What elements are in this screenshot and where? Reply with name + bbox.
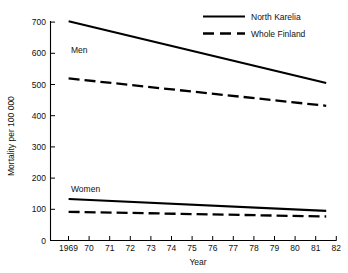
- x-tick-label-77: 77: [229, 243, 239, 253]
- legend-label-north-karelia: North Karelia: [251, 12, 301, 22]
- y-axis-ticks: [51, 22, 56, 240]
- x-tick-label-72: 72: [126, 243, 136, 253]
- legend-label-whole-finland: Whole Finland: [251, 29, 306, 39]
- chart-canvas: 0 100 200 300 400 500 600 700 Mortality …: [0, 0, 348, 273]
- y-tick-label-400: 400: [32, 111, 46, 121]
- x-tick-label-79: 79: [270, 243, 280, 253]
- y-tick-label-200: 200: [32, 173, 46, 183]
- x-tick-label-1969: 1969: [59, 243, 78, 253]
- y-axis-title: Mortality per 100 000: [6, 96, 16, 176]
- x-tick-label-78: 78: [249, 243, 259, 253]
- series-line-men-whole-finland: [69, 78, 327, 105]
- x-tick-label-82: 82: [332, 243, 342, 253]
- x-tick-label-70: 70: [84, 243, 94, 253]
- x-tick-label-81: 81: [311, 243, 321, 253]
- x-axis-ticks: [69, 236, 337, 241]
- x-tick-label-74: 74: [167, 243, 177, 253]
- chart-legend: North Karelia Whole Finland: [203, 12, 306, 39]
- annotation-men: Men: [71, 45, 88, 55]
- x-axis-title: Year: [189, 257, 206, 267]
- x-tick-label-73: 73: [146, 243, 156, 253]
- y-tick-label-0: 0: [41, 236, 46, 246]
- series-line-women-north-karelia: [69, 199, 327, 211]
- mortality-trend-chart: 0 100 200 300 400 500 600 700 Mortality …: [0, 0, 348, 273]
- y-tick-label-600: 600: [32, 48, 46, 58]
- y-tick-label-300: 300: [32, 142, 46, 152]
- y-tick-label-700: 700: [32, 17, 46, 27]
- series-line-women-whole-finland: [69, 212, 327, 217]
- x-tick-label-71: 71: [105, 243, 115, 253]
- x-tick-label-75: 75: [187, 243, 197, 253]
- x-tick-label-80: 80: [290, 243, 300, 253]
- annotation-women: Women: [71, 184, 100, 194]
- y-tick-label-500: 500: [32, 80, 46, 90]
- x-tick-label-76: 76: [208, 243, 218, 253]
- y-tick-label-100: 100: [32, 204, 46, 214]
